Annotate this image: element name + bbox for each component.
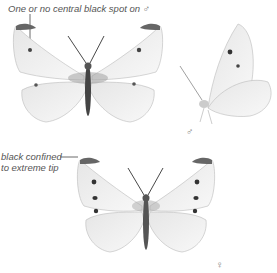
- male-butterfly-upperside: [13, 24, 162, 122]
- butterfly-illustrations: [0, 0, 277, 273]
- female-butterfly-upperside: [77, 158, 214, 252]
- male-butterfly-underside: [180, 24, 271, 124]
